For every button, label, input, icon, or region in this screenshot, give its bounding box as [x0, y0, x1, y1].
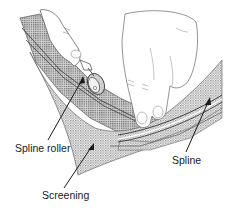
- label-spline: Spline: [172, 155, 201, 166]
- label-spline-roller: Spline roller: [15, 143, 70, 154]
- label-screening: Screening: [42, 190, 89, 201]
- screen-install-illustration: [0, 0, 234, 210]
- diagram-canvas: Spline roller Screening Spline: [0, 0, 234, 210]
